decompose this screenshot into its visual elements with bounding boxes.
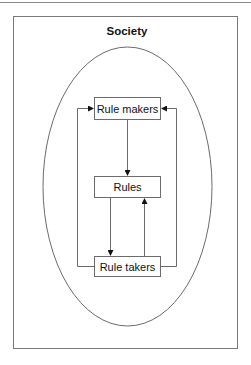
- node-rules-label: Rules: [113, 181, 142, 193]
- node-rule-makers-label: Rule makers: [97, 103, 159, 115]
- node-rule-takers: Rule takers: [95, 257, 161, 277]
- arrow-left-feedback-loop: [78, 109, 95, 267]
- society-title: Society: [107, 25, 149, 37]
- arrow-right-feedback-loop: [161, 109, 177, 267]
- node-rule-makers: Rule makers: [95, 98, 161, 120]
- node-rule-takers-label: Rule takers: [100, 261, 156, 273]
- society-diagram: Society Rule makers Rules Rule takers: [0, 0, 251, 365]
- node-rules: Rules: [95, 177, 161, 198]
